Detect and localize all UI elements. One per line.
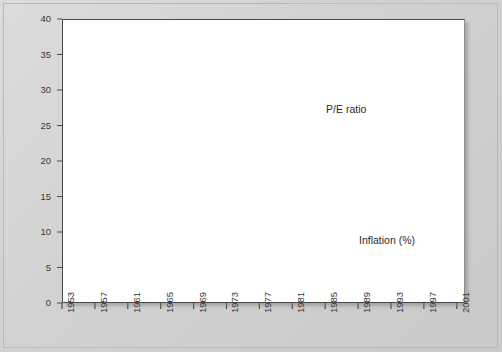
x-tick-label: 2001 [461,292,471,313]
y-tick-label: 10 [25,227,51,237]
x-tick-label: 1973 [230,292,240,313]
x-tick-label: 1985 [329,292,339,313]
x-tick-label: 1969 [198,292,208,313]
y-tick-label: 20 [25,156,51,166]
x-tick-label: 1981 [296,292,306,313]
y-tick-label: 25 [25,121,51,131]
y-tick-label: 0 [25,298,51,308]
series-label-inflation: Inflation (%) [359,234,415,246]
series-label-pe-ratio: P/E ratio [326,103,366,115]
y-tick-label: 15 [25,192,51,202]
x-tick-label: 1953 [66,292,76,313]
x-tick-label: 1989 [362,292,372,313]
x-tick-label: 1997 [428,292,438,313]
x-tick-label: 1961 [132,292,142,313]
y-tick-label: 35 [25,50,51,60]
y-tick-label: 40 [25,14,51,24]
x-tick-label: 1977 [263,292,273,313]
x-tick-label: 1993 [395,292,405,313]
y-tick-label: 5 [25,263,51,273]
y-tick-label: 30 [25,85,51,95]
chart-figure: 0510152025303540 19531957196119651969197… [0,0,502,352]
x-tick-label: 1957 [99,292,109,313]
x-tick-label: 1965 [165,292,175,313]
plot-area [62,19,465,303]
